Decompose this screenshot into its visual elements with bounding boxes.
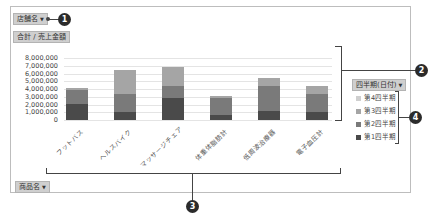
dropdown-arrow-icon: ▼	[42, 184, 46, 190]
bracket-3-left	[46, 168, 47, 173]
bracket-4-top	[395, 91, 398, 92]
gridline	[64, 58, 332, 59]
store-name-filter-button[interactable]: 店舗名▼	[13, 13, 48, 25]
gridline	[64, 120, 332, 121]
gridline	[64, 112, 332, 113]
bracket-2-top	[335, 46, 341, 47]
callout-dot-1	[46, 17, 50, 21]
bar-stack[interactable]	[210, 96, 232, 120]
gridline	[64, 97, 332, 98]
legend-label: 第3四半期	[364, 107, 396, 115]
bar-stack[interactable]	[306, 86, 328, 120]
bracket-4-bottom	[395, 143, 398, 144]
bar-segment[interactable]	[162, 86, 184, 98]
bracket-3-right	[340, 168, 341, 173]
y-axis-tick: 0	[10, 116, 58, 124]
callout-4: 4	[409, 111, 422, 124]
bar-segment[interactable]	[114, 70, 136, 94]
bar-stack[interactable]	[114, 70, 136, 120]
legend-swatch-icon	[356, 122, 361, 127]
legend-item[interactable]: 第4四半期	[356, 94, 396, 102]
bar-stack[interactable]	[258, 78, 280, 120]
callout-leader-4	[399, 117, 409, 118]
legend-label: 第1四半期	[364, 133, 396, 141]
gridline	[64, 74, 332, 75]
bar-segment[interactable]	[258, 86, 280, 111]
bar-segment[interactable]	[306, 86, 328, 94]
dropdown-arrow-icon: ▼	[398, 82, 402, 88]
bracket-2-bottom	[335, 120, 341, 121]
bar-segment[interactable]	[162, 67, 184, 86]
bracket-2	[341, 46, 342, 121]
bar-segment[interactable]	[162, 98, 184, 120]
legend-item[interactable]: 第3四半期	[356, 107, 396, 115]
bar-segment[interactable]	[66, 104, 88, 120]
legend-label: 第4四半期	[364, 94, 396, 102]
bar-segment[interactable]	[210, 115, 232, 120]
legend-item[interactable]: 第1四半期	[356, 133, 396, 141]
dropdown-arrow-icon: ▼	[40, 16, 44, 22]
legend-swatch-icon	[356, 109, 361, 114]
bar-segment[interactable]	[306, 112, 328, 120]
gridline	[64, 66, 332, 67]
bar-segment[interactable]	[114, 112, 136, 120]
value-field-label: 合計 / 売上金額	[17, 33, 66, 41]
quarter-filter-button[interactable]: 四半期(日付)▼	[352, 79, 406, 91]
callout-3: 3	[186, 200, 199, 213]
legend-swatch-icon	[356, 96, 361, 101]
callout-1: 1	[58, 13, 71, 26]
value-field-button[interactable]: 合計 / 売上金額	[13, 31, 70, 43]
callout-leader-2	[342, 70, 418, 71]
product-name-label: 商品名	[19, 183, 40, 191]
quarter-field-label: 四半期(日付)	[356, 81, 396, 89]
legend-swatch-icon	[356, 135, 361, 140]
bar-stack[interactable]	[66, 88, 88, 120]
legend-item[interactable]: 第2四半期	[356, 120, 396, 128]
gridline	[64, 105, 332, 106]
callout-leader-3	[192, 174, 193, 201]
bar-stack[interactable]	[162, 67, 184, 120]
bar-segment[interactable]	[210, 98, 232, 116]
callout-2: 2	[415, 64, 428, 77]
legend-label: 第2四半期	[364, 120, 396, 128]
bar-segment[interactable]	[306, 94, 328, 113]
gridline	[64, 81, 332, 82]
gridline	[64, 89, 332, 90]
bar-segment[interactable]	[258, 78, 280, 86]
bar-segment[interactable]	[66, 90, 88, 104]
bracket-3	[46, 173, 341, 174]
bar-segment[interactable]	[258, 111, 280, 120]
product-name-filter-button[interactable]: 商品名▼	[15, 181, 50, 193]
store-name-label: 店舗名	[17, 15, 38, 23]
bar-segment[interactable]	[114, 94, 136, 113]
